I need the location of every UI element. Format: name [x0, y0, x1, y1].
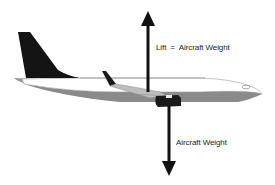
tail-fin: [18, 32, 80, 78]
lift-weight-diagram: Lift=Aircraft Weight Aircraft Weight: [0, 0, 275, 185]
lift-equals-text: Aircraft Weight: [179, 43, 230, 52]
engine-intake-highlight: [166, 95, 172, 98]
lift-arrow-head-icon: [141, 11, 155, 26]
weight-arrow-head-icon: [162, 161, 176, 176]
aircraft-weight-label: Aircraft Weight: [176, 138, 227, 147]
equals-sign: =: [170, 43, 175, 52]
lift-equals-weight-label: Lift=Aircraft Weight: [156, 43, 230, 52]
aircraft-illustration: [0, 0, 275, 185]
lift-label-text: Lift: [156, 43, 166, 52]
